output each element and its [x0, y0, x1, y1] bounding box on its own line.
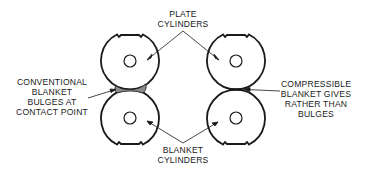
plate-cylinders-label: PLATE CYLINDERS: [158, 9, 209, 29]
left-blanket-cylinder: [101, 90, 159, 145]
blanket-cylinders-label: BLANKET CYLINDERS: [158, 145, 209, 165]
conventional-label-line-2: BLANKET: [32, 87, 73, 97]
compressible-label-line-3: RATHER THAN: [285, 99, 348, 109]
plate-label-line-1: PLATE: [169, 9, 197, 19]
compressible-label-line-1: COMPRESSIBLE: [281, 79, 351, 89]
conventional-label-line-4: CONTACT POINT: [16, 107, 89, 117]
left-plate-hub: [124, 55, 136, 67]
right-blanket-hub: [230, 112, 242, 124]
right-plate-cylinder: [207, 35, 265, 90]
conventional-blanket-label: CONVENTIONAL BLANKET BULGES AT CONTACT P…: [16, 77, 89, 117]
conventional-blanket-bulge: [115, 84, 146, 93]
plate-label-line-2: CYLINDERS: [158, 19, 209, 29]
blanket-label-line-1: BLANKET: [163, 145, 204, 155]
printing-cylinders-diagram: PLATE CYLINDERS BLANKET CYLINDERS CONVEN…: [0, 0, 366, 173]
compressible-label-line-4: BULGES: [298, 109, 334, 119]
compressible-label-line-2: BLANKET GIVES: [281, 89, 351, 99]
conventional-label-line-1: CONVENTIONAL: [17, 77, 87, 87]
blanket-label-line-2: CYLINDERS: [158, 155, 209, 165]
right-plate-hub: [230, 55, 242, 67]
left-blanket-hub: [124, 112, 136, 124]
left-plate-cylinder: [101, 35, 159, 90]
right-blanket-cylinder: [207, 90, 265, 145]
compressible-blanket-label: COMPRESSIBLE BLANKET GIVES RATHER THAN B…: [281, 79, 351, 119]
conventional-label-line-3: BULGES AT: [28, 97, 77, 107]
compressible-leader-line: [244, 88, 280, 92]
